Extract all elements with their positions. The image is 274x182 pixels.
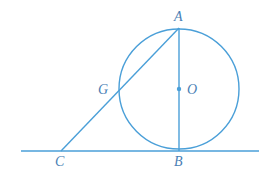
label-a: A: [173, 9, 183, 24]
geometry-diagram: A G O C B: [0, 0, 274, 182]
center-point-o: [177, 87, 181, 91]
label-g: G: [98, 82, 108, 97]
segment-ac: [61, 28, 179, 151]
label-o: O: [187, 82, 197, 97]
label-c: C: [55, 154, 65, 169]
diagram-svg: A G O C B: [0, 0, 274, 182]
label-b: B: [174, 154, 183, 169]
